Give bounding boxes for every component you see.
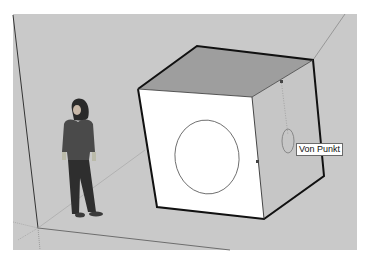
ground-guide-line-2 [18, 228, 38, 240]
midpoint-marker-top [280, 80, 283, 83]
midpoint-marker-side [256, 160, 259, 163]
cube-front-face[interactable] [138, 89, 264, 219]
vertical-axis-line [13, 15, 38, 228]
inference-tooltip: Von Punkt [296, 143, 343, 156]
person-left-shoe [75, 213, 85, 218]
person-torso [62, 120, 95, 160]
ground-axis-line [38, 228, 230, 250]
blue-axis-line [313, 14, 345, 60]
vertical-axis-line-dashed [38, 228, 40, 250]
person-legs [68, 160, 96, 214]
person-face [73, 105, 81, 115]
scale-figure-person[interactable] [62, 98, 103, 217]
3d-scene[interactable] [0, 0, 369, 260]
person-right-hand [92, 152, 96, 161]
person-left-hand [62, 152, 66, 160]
person-right-shoe [89, 212, 103, 217]
ground-guide-line [13, 222, 38, 228]
cube[interactable] [138, 46, 324, 219]
